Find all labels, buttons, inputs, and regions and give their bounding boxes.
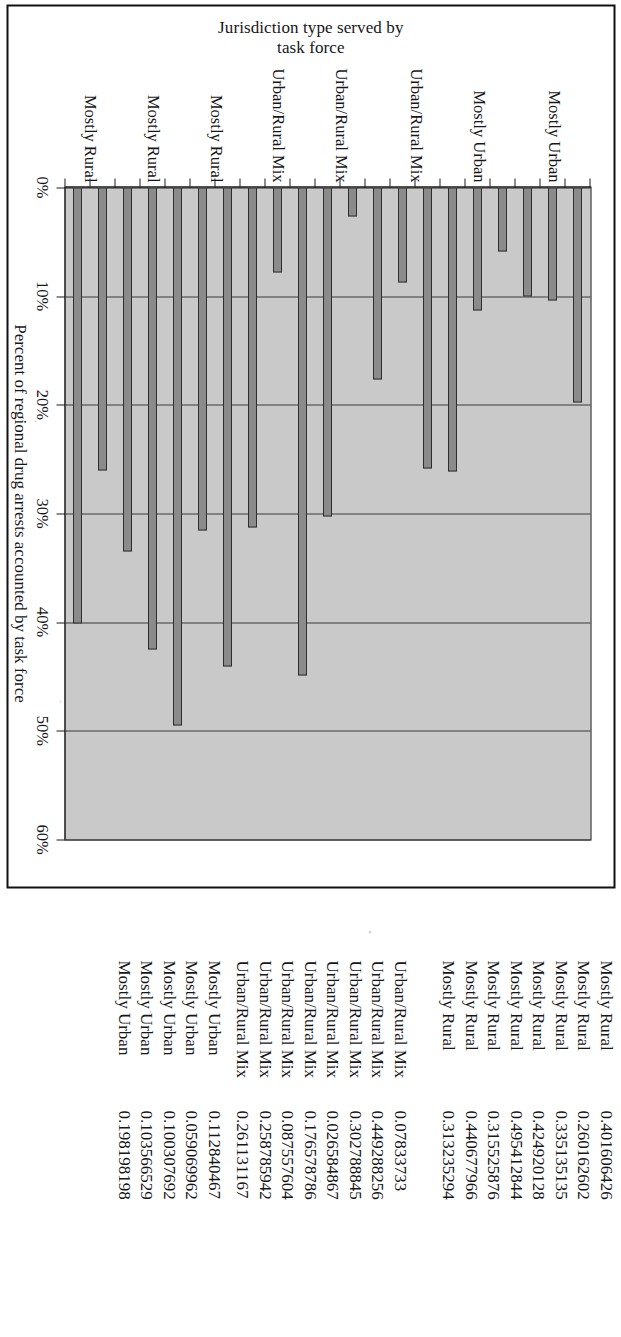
gridline bbox=[65, 730, 590, 731]
data-row: Urban/Rural Mix0.258785942 bbox=[252, 960, 275, 1260]
bar bbox=[373, 187, 382, 379]
data-row: Mostly Rural0.315525876 bbox=[480, 960, 503, 1260]
bar bbox=[423, 187, 432, 468]
data-row-label: Urban/Rural Mix bbox=[367, 960, 387, 1110]
data-row: Urban/Rural Mix0.026584867 bbox=[319, 960, 342, 1260]
data-row: Mostly Urban0.100307692 bbox=[156, 960, 179, 1260]
bar bbox=[148, 187, 157, 649]
value-axis-tick bbox=[56, 296, 65, 297]
bar bbox=[523, 187, 532, 296]
value-axis-tick bbox=[56, 513, 65, 514]
data-row-value: 0.424920128 bbox=[528, 1110, 548, 1260]
data-row-value: 0.261131167 bbox=[232, 1110, 252, 1260]
data-row-value: 0.302788845 bbox=[344, 1110, 364, 1260]
data-row: Mostly Rural0.260162602 bbox=[570, 960, 593, 1260]
category-axis-tick bbox=[239, 178, 240, 187]
y-axis-title: Jurisdiction type served by task force bbox=[8, 6, 613, 68]
data-row-label: Mostly Rural bbox=[595, 960, 615, 1110]
data-row-value: 0.401606426 bbox=[595, 1110, 615, 1260]
data-row-label: Urban/Rural Mix bbox=[299, 960, 319, 1110]
bar-chart-figure: Jurisdiction type served by task force M… bbox=[6, 4, 615, 888]
category-axis-tick bbox=[264, 178, 265, 187]
data-row-label: Mostly Urban bbox=[158, 960, 178, 1110]
scanned-page: Jurisdiction type served by task force M… bbox=[0, 0, 621, 1337]
value-axis-tick-label: 30% bbox=[31, 498, 51, 528]
category-label: Mostly Rural bbox=[205, 94, 225, 182]
value-axis-tick-label: 60% bbox=[31, 824, 51, 854]
data-row-value: 0.440677966 bbox=[460, 1110, 480, 1260]
data-row-label: Urban/Rural Mix bbox=[389, 960, 409, 1110]
category-label: Urban/Rural Mix bbox=[330, 68, 350, 182]
data-row: Mostly Rural0.424920128 bbox=[525, 960, 548, 1260]
x-axis-title: Percent of regional drug arrests account… bbox=[9, 187, 29, 839]
data-row-value: 0.07833733 bbox=[389, 1110, 409, 1260]
category-axis-tick bbox=[289, 178, 290, 187]
category-axis-tick bbox=[114, 178, 115, 187]
data-row: Mostly Urban0.112840467 bbox=[201, 960, 224, 1260]
value-axis-tick bbox=[56, 839, 65, 840]
data-row: Urban/Rural Mix0.261131167 bbox=[229, 960, 252, 1260]
bar bbox=[498, 187, 507, 251]
data-row-value: 0.176578786 bbox=[299, 1110, 319, 1260]
bar bbox=[573, 187, 582, 402]
data-row: Urban/Rural Mix0.449288256 bbox=[364, 960, 387, 1260]
data-row-value: 0.026584867 bbox=[322, 1110, 342, 1260]
data-row-label: Urban/Rural Mix bbox=[344, 960, 364, 1110]
category-axis-tick bbox=[414, 178, 415, 187]
data-group: Mostly Rural0.401606426Mostly Rural0.260… bbox=[435, 960, 615, 1260]
category-axis-tick bbox=[339, 178, 340, 187]
data-row-label: Mostly Rural bbox=[573, 960, 593, 1110]
data-row: Mostly Urban0.198198198 bbox=[111, 960, 134, 1260]
category-label: Mostly Rural bbox=[142, 94, 162, 182]
data-group: Mostly Urban0.112840467Mostly Urban0.059… bbox=[111, 960, 224, 1260]
data-row-value: 0.059069962 bbox=[181, 1110, 201, 1260]
data-row: Mostly Rural0.313235294 bbox=[435, 960, 458, 1260]
category-axis-tick bbox=[64, 178, 65, 187]
bar bbox=[198, 187, 207, 530]
category-axis-tick bbox=[564, 178, 565, 187]
data-row-value: 0.335135135 bbox=[550, 1110, 570, 1260]
data-row: Mostly Rural0.440677966 bbox=[458, 960, 481, 1260]
data-row: Urban/Rural Mix0.07833733 bbox=[387, 960, 410, 1260]
data-row-value: 0.315525876 bbox=[483, 1110, 503, 1260]
bar bbox=[398, 187, 407, 282]
data-row: Urban/Rural Mix0.302788845 bbox=[342, 960, 365, 1260]
data-row-value: 0.260162602 bbox=[573, 1110, 593, 1260]
data-row-label: Mostly Urban bbox=[136, 960, 156, 1110]
bar bbox=[98, 187, 107, 470]
y-axis-title-text: Jurisdiction type served by task force bbox=[218, 17, 403, 57]
data-row-label: Mostly Urban bbox=[113, 960, 133, 1110]
data-row-value: 0.198198198 bbox=[113, 1110, 133, 1260]
value-axis-tick bbox=[56, 730, 65, 731]
data-row-label: Mostly Rural bbox=[528, 960, 548, 1110]
category-axis-tick bbox=[489, 178, 490, 187]
data-row: Mostly Urban0.059069962 bbox=[178, 960, 201, 1260]
data-row-label: Mostly Rural bbox=[550, 960, 570, 1110]
category-axis-tick bbox=[214, 178, 215, 187]
value-axis-tick-label: 40% bbox=[31, 607, 51, 637]
category-label: Mostly Rural bbox=[79, 94, 99, 182]
category-axis-tick bbox=[514, 178, 515, 187]
bar bbox=[173, 187, 182, 725]
data-value-list: Mostly Rural0.401606426Mostly Rural0.260… bbox=[0, 960, 621, 1332]
value-axis-tick-label: 10% bbox=[31, 281, 51, 311]
bar bbox=[348, 187, 357, 216]
data-row: Mostly Rural0.495412844 bbox=[503, 960, 526, 1260]
bar bbox=[548, 187, 557, 300]
category-axis-tick bbox=[389, 178, 390, 187]
data-row-label: Mostly Urban bbox=[203, 960, 223, 1110]
category-label: Urban/Rural Mix bbox=[267, 68, 287, 182]
bar bbox=[273, 187, 282, 272]
data-row: Urban/Rural Mix0.087557604 bbox=[274, 960, 297, 1260]
value-axis-tick-label: 50% bbox=[31, 715, 51, 745]
category-label: Urban/Rural Mix bbox=[405, 68, 425, 182]
category-label: Mostly Urban bbox=[543, 90, 563, 182]
data-row-value: 0.087557604 bbox=[277, 1110, 297, 1260]
data-row-value: 0.258785942 bbox=[254, 1110, 274, 1260]
data-row: Mostly Urban0.103566529 bbox=[133, 960, 156, 1260]
value-axis-tick bbox=[56, 622, 65, 623]
data-row: Mostly Rural0.401606426 bbox=[593, 960, 616, 1260]
data-row-value: 0.112840467 bbox=[203, 1110, 223, 1260]
value-axis-tick-label: 20% bbox=[31, 389, 51, 419]
gridline bbox=[65, 839, 590, 840]
